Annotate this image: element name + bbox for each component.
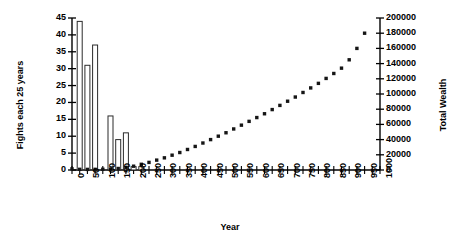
- bar: [77, 21, 82, 170]
- y-axis-right-tick-label: 200000: [386, 12, 416, 22]
- bar: [85, 65, 90, 170]
- data-point-marker: [132, 165, 135, 168]
- data-point-marker: [355, 47, 358, 50]
- chart-svg: [0, 0, 450, 238]
- y-axis-right-tick-label: 160000: [386, 42, 416, 52]
- data-point-marker: [255, 116, 258, 119]
- data-point-marker: [232, 127, 235, 130]
- data-point-marker: [286, 100, 289, 103]
- data-point-marker: [363, 32, 366, 35]
- data-point-marker: [317, 82, 320, 85]
- y-axis-right-tick-label: 100000: [386, 88, 416, 98]
- data-point-marker: [247, 120, 250, 123]
- x-axis-tick-label: 250: [153, 163, 163, 178]
- x-axis-tick-label: 650: [276, 163, 286, 178]
- x-axis-tick-label: 700: [292, 163, 302, 178]
- y-axis-left-tick-label: 45: [30, 12, 66, 22]
- data-point-marker: [170, 153, 173, 156]
- data-point-marker: [101, 168, 104, 171]
- y-axis-left-tick-label: 5: [30, 147, 66, 157]
- x-axis-tick-label: 800: [322, 163, 332, 178]
- x-axis-tick-label: 0: [76, 173, 86, 178]
- data-point-marker: [294, 95, 297, 98]
- data-point-marker: [348, 58, 351, 61]
- x-axis-tick-label: 500: [230, 163, 240, 178]
- bars-group: [77, 21, 144, 170]
- data-point-marker: [240, 123, 243, 126]
- data-point-marker: [117, 167, 120, 170]
- y-axis-right-tick-label: 40000: [386, 134, 411, 144]
- data-point-marker: [332, 72, 335, 75]
- markers-group: [70, 32, 366, 172]
- data-point-marker: [155, 158, 158, 161]
- data-point-marker: [186, 148, 189, 151]
- y-axis-right-tick-label: 60000: [386, 118, 411, 128]
- x-axis-tick-label: 350: [184, 163, 194, 178]
- data-point-marker: [209, 138, 212, 141]
- data-point-marker: [78, 168, 81, 171]
- chart-container: Fights each 25 years Total Wealth Year 0…: [0, 0, 450, 238]
- data-point-marker: [224, 131, 227, 134]
- x-axis-tick-label: 900: [353, 163, 363, 178]
- data-point-marker: [324, 77, 327, 80]
- y-axis-left-tick-label: 0: [30, 164, 66, 174]
- x-axis-tick-label: 1000: [384, 158, 394, 178]
- x-axis-tick-label: 950: [369, 163, 379, 178]
- y-axis-right-tick-label: 80000: [386, 103, 411, 113]
- y-axis-left-tick-label: 30: [30, 63, 66, 73]
- x-axis-tick-label: 550: [245, 163, 255, 178]
- y-axis-left-tick-label: 40: [30, 29, 66, 39]
- data-point-marker: [86, 168, 89, 171]
- y-axis-left-tick-label: 10: [30, 130, 66, 140]
- data-point-marker: [194, 145, 197, 148]
- x-axis-tick-label: 100: [107, 163, 117, 178]
- data-point-marker: [217, 134, 220, 137]
- x-axis-tick-label: 600: [261, 163, 271, 178]
- data-point-marker: [201, 141, 204, 144]
- bar: [108, 116, 113, 170]
- x-axis-tick-label: 750: [307, 163, 317, 178]
- y-axis-left-tick-label: 35: [30, 46, 66, 56]
- y-axis-right-tick-label: 180000: [386, 27, 416, 37]
- y-axis-left-tick-label: 20: [30, 96, 66, 106]
- x-axis-tick-label: 200: [138, 163, 148, 178]
- data-point-marker: [278, 104, 281, 107]
- y-axis-right-tick-label: 140000: [386, 58, 416, 68]
- y-axis-right-tick-label: 120000: [386, 73, 416, 83]
- data-point-marker: [163, 156, 166, 159]
- x-axis-tick-label: 450: [215, 163, 225, 178]
- x-axis-tick-label: 850: [338, 163, 348, 178]
- y-axis-left-tick-label: 15: [30, 113, 66, 123]
- bar: [93, 45, 98, 170]
- data-point-marker: [271, 108, 274, 111]
- x-axis-tick-label: 400: [199, 163, 209, 178]
- y-axis-left-tick-label: 25: [30, 80, 66, 90]
- data-point-marker: [340, 66, 343, 69]
- x-axis-tick-label: 150: [122, 163, 132, 178]
- data-point-marker: [301, 91, 304, 94]
- data-point-marker: [70, 167, 73, 170]
- data-point-marker: [309, 86, 312, 89]
- data-point-marker: [263, 112, 266, 115]
- x-axis-tick-label: 50: [91, 168, 101, 178]
- data-point-marker: [178, 151, 181, 154]
- x-axis-tick-label: 300: [168, 163, 178, 178]
